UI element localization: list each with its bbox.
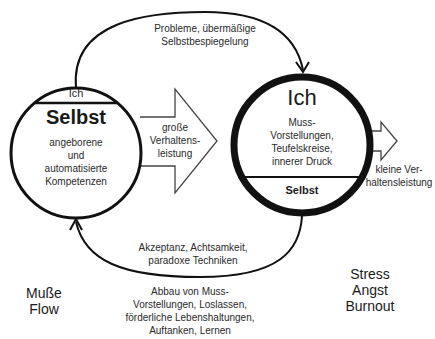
right-circle-description: Muss- Vorstellungen, Teufelskreise, inne…	[252, 116, 352, 168]
small-arrow-label: kleine Ver- haltensleistung	[363, 163, 435, 189]
left-circle-title: Selbst	[36, 106, 116, 128]
bottom-notes: Abbau von Muss- Vorstellungen, Loslassen…	[120, 285, 260, 337]
right-circle-title: Ich	[262, 86, 342, 110]
right-circle-selbst-label: Selbst	[272, 184, 332, 196]
top-curve-label: Probleme, übermäßige Selbstbespiegelung	[140, 22, 270, 48]
small-arrow-shape	[370, 122, 397, 160]
right-state-label: Stress Angst Burnout	[330, 266, 410, 314]
left-state-label: Muße Flow	[14, 285, 74, 317]
left-circle-description: angeborene und automatisierte Kompetenze…	[26, 136, 126, 188]
big-arrow-label: große Verhaltens- leistung	[143, 121, 207, 160]
bottom-curve-label: Akzeptanz, Achtsamkeit, paradoxe Technik…	[128, 241, 258, 267]
left-circle-ich-label: Ich	[56, 87, 96, 100]
